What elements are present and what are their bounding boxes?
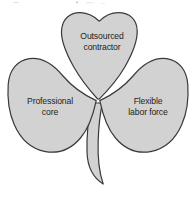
shamrock-graphic [0, 0, 196, 197]
shamrock-diagram: Outsourced contractor Professional core … [0, 0, 196, 197]
